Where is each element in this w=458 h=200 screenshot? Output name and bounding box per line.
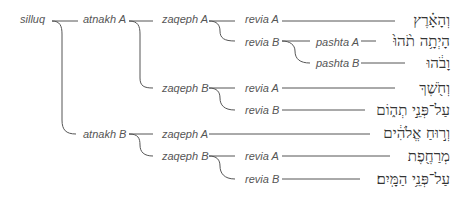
hebrew-leaf-8: עַל־פְּנֵ֥י הַמָּֽיִם׃: [377, 170, 451, 188]
node-silluq: silluq: [20, 13, 45, 25]
node-atnakh-a-zaqeph-a: zaqeph A: [162, 13, 208, 25]
node-aa-zb-revia-b: revia B: [245, 104, 279, 116]
hebrew-leaf-4: וְחֹ֖שֶׁךְ: [419, 79, 450, 97]
hebrew-leaf-5: עַל־פְּנֵ֣י תְה֑וֹם: [376, 101, 450, 119]
node-ab-zb-revia-b: revia B: [245, 173, 279, 185]
node-pashta-b: pashta B: [316, 57, 359, 69]
node-aa-za-revia-b: revia B: [245, 36, 279, 48]
cantillation-tree-diagram: silluq atnakh A atnakh B zaqeph A zaqeph…: [0, 0, 458, 200]
hebrew-leaf-2: הָיְתָ֥ה תֹ֨הוּ֙: [393, 32, 450, 50]
node-atnakh-b: atnakh B: [83, 128, 126, 140]
hebrew-leaf-7: מְרַחֶ֖פֶת: [408, 147, 450, 165]
node-aa-za-revia-a: revia A: [245, 13, 279, 25]
node-ab-zb-revia-a: revia A: [245, 150, 279, 162]
node-atnakh-a: atnakh A: [83, 13, 126, 25]
node-atnakh-a-zaqeph-b: zaqeph B: [162, 82, 208, 94]
hebrew-leaf-1: וְהָאָ֗רֶץ: [413, 11, 450, 29]
node-atnakh-b-zaqeph-a: zaqeph A: [162, 128, 208, 140]
node-atnakh-b-zaqeph-b: zaqeph B: [162, 150, 208, 162]
hebrew-leaf-3: וָבֹ֔הוּ: [426, 54, 450, 72]
hebrew-leaf-6: וְר֣וּחַ אֱלֹהִ֔ים: [383, 124, 450, 142]
node-aa-zb-revia-a: revia A: [245, 82, 279, 94]
node-pashta-a: pashta A: [316, 36, 359, 48]
